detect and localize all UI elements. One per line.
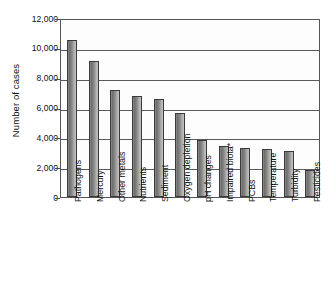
y-axis-tick-mark: [55, 49, 60, 50]
y-axis-tick-mark: [55, 168, 60, 169]
bar: [132, 96, 142, 197]
bar: [262, 149, 272, 197]
y-axis-tick-label: 12,000: [20, 15, 58, 24]
gridline: [61, 169, 319, 170]
bar: [154, 99, 164, 197]
y-axis-tick-label: 4,000: [20, 134, 58, 143]
bar: [175, 113, 185, 197]
gridline: [61, 50, 319, 51]
y-axis-tick-label: 2,000: [20, 164, 58, 173]
gridline: [61, 80, 319, 81]
bar: [197, 140, 207, 197]
y-axis-tick-label: 10,000: [20, 44, 58, 53]
y-axis-tick-mark: [55, 138, 60, 139]
bar: [240, 148, 250, 197]
y-axis-tick-label: 6,000: [20, 104, 58, 113]
bar: [67, 40, 77, 197]
bar: [219, 146, 229, 197]
gridline: [61, 110, 319, 111]
y-axis-tick-mark: [55, 198, 60, 199]
bar-chart-figure: Number of cases 12,00010,0008,0006,0004,…: [0, 0, 335, 293]
bar: [305, 170, 315, 197]
bar: [284, 151, 294, 197]
y-axis-tick-label: 0: [20, 194, 58, 203]
gridline: [61, 139, 319, 140]
y-axis-tick-mark: [55, 79, 60, 80]
y-axis-tick-labels: 12,00010,0008,0006,0004,0002,0000: [20, 0, 58, 293]
y-axis-tick-mark: [55, 19, 60, 20]
y-axis-tick-label: 8,000: [20, 74, 58, 83]
y-axis-tick-mark: [55, 109, 60, 110]
bar: [89, 61, 99, 197]
plot-area: [60, 19, 320, 198]
bar: [110, 90, 120, 197]
